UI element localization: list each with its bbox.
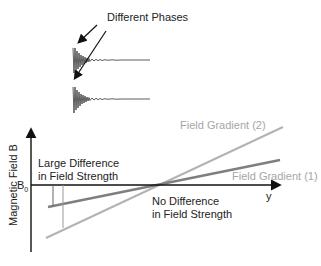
no-diff-line1: No Difference: [152, 195, 232, 208]
x-axis-label: y: [266, 190, 272, 203]
phase-arrow-2: [75, 31, 106, 78]
b0-label: B0: [17, 179, 28, 196]
no-difference-label: No Differencein Field Strength: [152, 195, 232, 221]
diagram-canvas: [0, 0, 321, 266]
field-gradient-1-label: Field Gradient (1): [232, 170, 318, 183]
field-gradient-2-label: Field Gradient (2): [180, 119, 266, 132]
title-label: Different Phases: [107, 11, 188, 24]
large-diff-line2: in Field Strength: [38, 170, 119, 183]
large-diff-line1: Large Difference: [38, 157, 119, 170]
large-difference-label: Large Differencein Field Strength: [38, 157, 119, 183]
phase-arrow-1: [79, 25, 97, 42]
no-diff-line2: in Field Strength: [152, 208, 232, 221]
decay-signal-1: [73, 48, 150, 73]
b0-subscript: 0: [24, 186, 28, 193]
decay-signal-2: [73, 87, 150, 113]
